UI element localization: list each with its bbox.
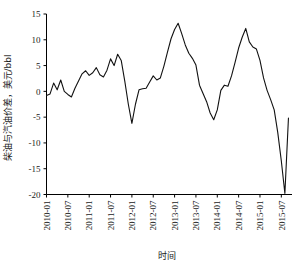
x-tick-label: 2014-07 <box>234 200 244 230</box>
x-axis-ticks: 2010-012010-072011-012011-072012-012012-… <box>42 195 287 231</box>
y-tick-label: -5 <box>33 112 41 122</box>
y-tick-label: -20 <box>29 190 41 200</box>
chart-container: 柴油与汽油价差，美元/bbl 时间 -20-15-10-5051015 2010… <box>0 0 301 266</box>
x-tick-label: 2015-01 <box>255 201 265 231</box>
x-tick-label: 2013-01 <box>170 201 180 231</box>
x-tick-label: 2013-07 <box>191 200 201 230</box>
x-tick-label: 2014-01 <box>212 201 222 231</box>
x-tick-label: 2010-01 <box>42 201 52 231</box>
x-tick-label: 2012-01 <box>127 201 137 231</box>
x-axis-title: 时间 <box>158 250 176 261</box>
y-tick-label: -15 <box>29 164 41 174</box>
x-tick-label: 2015-07 <box>277 200 287 230</box>
data-series-line <box>47 23 289 193</box>
x-tick-label: 2011-07 <box>106 200 116 230</box>
y-axis-ticks: -20-15-10-5051015 <box>29 9 47 200</box>
y-tick-label: 15 <box>32 9 42 19</box>
y-tick-label: 10 <box>32 35 42 45</box>
x-tick-label: 2012-07 <box>148 200 158 230</box>
y-axis-title: 柴油与汽油价差，美元/bbl <box>2 55 13 162</box>
y-tick-label: -10 <box>29 138 41 148</box>
y-tick-label: 5 <box>36 61 41 71</box>
line-chart: 柴油与汽油价差，美元/bbl 时间 -20-15-10-5051015 2010… <box>0 0 301 266</box>
y-tick-label: 0 <box>36 87 41 97</box>
x-tick-label: 2010-07 <box>63 200 73 230</box>
x-tick-label: 2011-01 <box>84 201 94 231</box>
